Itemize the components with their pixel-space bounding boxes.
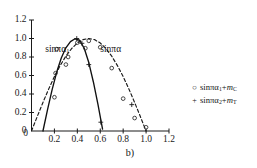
data-point-circle xyxy=(87,39,91,43)
data-point-plus xyxy=(129,102,134,107)
y-axis-tick-label: 0.6 xyxy=(5,71,27,81)
data-point-circle xyxy=(110,66,114,70)
x-axis-tick-label: 0.8 xyxy=(111,135,135,145)
circle-marker-icon: ○ xyxy=(190,84,199,92)
x-axis-tick-label: 0.6 xyxy=(88,135,112,145)
panel-caption: b) xyxy=(110,148,150,158)
figure-panel-b: 00.20.40.60.81.01.2 00.20.40.60.81.01.2 … xyxy=(0,0,257,168)
data-point-circle xyxy=(133,116,137,120)
data-point-plus xyxy=(86,62,91,67)
data-point-circle xyxy=(121,97,125,101)
x-axis-tick-label: 0.4 xyxy=(65,135,89,145)
axes xyxy=(29,20,169,134)
legend-item-label: sinπα2+mT xyxy=(200,96,236,106)
y-axis-tick-label: 0.4 xyxy=(5,89,27,99)
x-axis-tick-label: 1.0 xyxy=(134,135,158,145)
data-point-circle xyxy=(64,63,68,67)
y-axis-tick-label: 1.2 xyxy=(5,15,27,25)
curve-label-sin-pi-alpha: sinπα xyxy=(100,45,121,55)
data-point-circle xyxy=(53,95,57,99)
legend-item-plus: +sinπα2+mT xyxy=(190,96,236,106)
legend-item-label: sinπα1+mC xyxy=(200,83,237,93)
curve-label-sin-pi-alpha-1: sinπα1 xyxy=(45,45,69,55)
x-axis-tick-label: 1.2 xyxy=(157,135,181,145)
legend-item-circle: ○sinπα1+mC xyxy=(190,83,237,93)
y-axis-tick-label: 1.0 xyxy=(5,34,27,44)
x-axis-tick-label: 0.2 xyxy=(42,135,66,145)
y-axis-tick-label: 0.8 xyxy=(5,52,27,62)
plus-marker-icon: + xyxy=(190,97,199,105)
data-point-circle xyxy=(66,55,70,59)
data-point-plus xyxy=(98,120,103,125)
x-axis-tick-label: 0 xyxy=(14,129,38,139)
y-axis-tick-label: 0.2 xyxy=(5,108,27,118)
